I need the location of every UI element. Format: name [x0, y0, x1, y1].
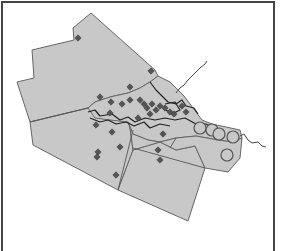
- circle-marker-icon[interactable]: [221, 149, 233, 161]
- river-line: [240, 134, 266, 147]
- circle-marker-icon[interactable]: [213, 128, 225, 140]
- circle-marker-icon[interactable]: [227, 131, 239, 143]
- river-line: [176, 61, 207, 93]
- region-south[interactable]: [118, 142, 205, 221]
- circle-marker-icon[interactable]: [194, 122, 206, 134]
